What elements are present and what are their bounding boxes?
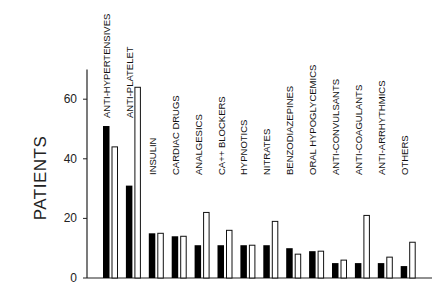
bar-filled (218, 245, 225, 278)
category-label: CARDIAC DRUGS (170, 95, 181, 175)
bar-open (272, 221, 278, 278)
bar-filled (103, 126, 110, 278)
bar-open (204, 212, 210, 278)
bars (103, 87, 415, 278)
bar-open (135, 87, 141, 278)
y-tick-label: 40 (64, 152, 78, 166)
category-label: NITRATES (261, 129, 272, 175)
category-labels: ANTI-HYPERTENSIVESANTI-PLATELETINSULINCA… (101, 14, 410, 175)
category-label: OTHERS (399, 135, 410, 175)
bar-filled (378, 263, 385, 278)
bar-open (341, 260, 347, 278)
bar-open (295, 254, 301, 278)
bar-open (158, 233, 164, 278)
category-label: INSULIN (147, 137, 158, 175)
category-label: ORAL HYPOGLYCEMICS (307, 65, 318, 175)
y-tick-label: 60 (64, 92, 78, 106)
bar-open (364, 215, 370, 278)
category-label: ANTI-PLATELET (124, 46, 135, 118)
category-label: ANTI-ARRHYTHMICS (376, 81, 387, 175)
bar-filled (286, 248, 293, 278)
bar-filled (126, 186, 132, 278)
bar-filled (401, 266, 408, 278)
bar-open (318, 251, 324, 278)
y-tick-label: 0 (70, 271, 77, 285)
category-label: ANTI-COAGULANTS (353, 85, 364, 175)
category-label: CA++ BLOCKERS (216, 96, 227, 175)
bar-filled (332, 263, 339, 278)
bar-filled (149, 233, 156, 278)
bar-filled (355, 263, 362, 278)
bar-chart: 0204060 ANTI-HYPERTENSIVESANTI-PLATELETI… (0, 0, 445, 294)
y-tick-label: 20 (64, 211, 78, 225)
bar-open (387, 257, 393, 278)
bar-filled (172, 236, 179, 278)
bar-filled (240, 245, 247, 278)
bar-open (112, 147, 118, 278)
category-label: ANTI-CONVULSANTS (330, 79, 341, 175)
bar-filled (195, 245, 202, 278)
category-label: ANTI-HYPERTENSIVES (101, 14, 112, 118)
bar-open (410, 242, 416, 278)
bar-filled (263, 245, 270, 278)
bar-filled (309, 251, 316, 278)
bar-open (249, 245, 255, 278)
category-label: ANALGESICS (193, 114, 204, 175)
bar-open (227, 230, 233, 278)
category-label: BENZODIAZEPINES (284, 86, 295, 175)
category-label: HYPNOTICS (238, 120, 249, 175)
bar-open (181, 236, 187, 278)
y-axis-label: PATIENTS (31, 136, 50, 221)
